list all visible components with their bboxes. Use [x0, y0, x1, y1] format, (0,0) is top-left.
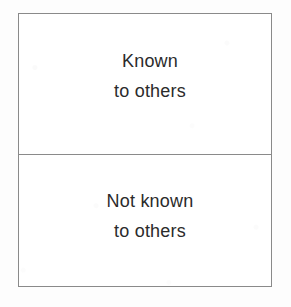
cell-known-to-others: Known to others — [19, 14, 271, 155]
cell-not-known-to-others: Not known to others — [19, 155, 271, 286]
cell-known-line-1: Known — [112, 46, 178, 76]
two-row-label-panel: Known to others Not known to others — [18, 13, 272, 287]
cell-not-known-line-1: Not known — [97, 186, 194, 216]
cell-known-line-2: to others — [104, 76, 186, 106]
cell-not-known-line-2: to others — [104, 216, 186, 246]
